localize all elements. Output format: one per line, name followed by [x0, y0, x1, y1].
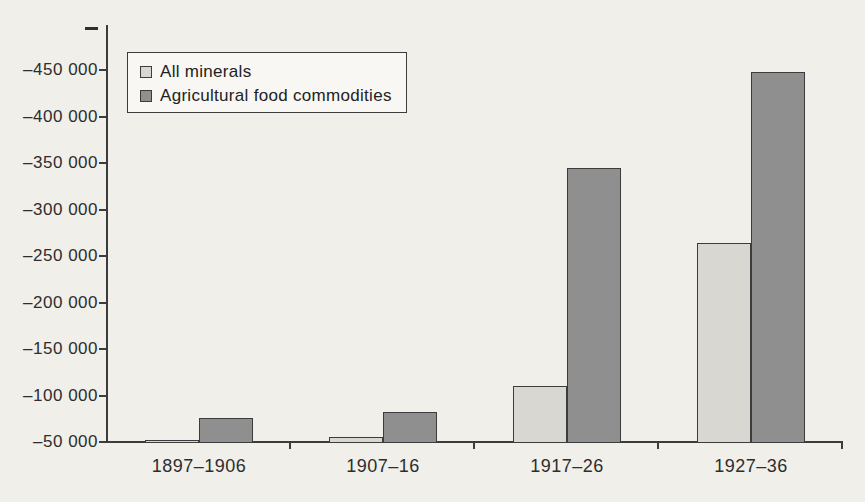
x-tick — [473, 441, 475, 449]
legend-item-agricultural-food-commodities: Agricultural food commodities — [140, 84, 406, 108]
y-tick-label: –150 000 — [4, 338, 98, 360]
y-tick — [99, 302, 107, 304]
y-tick-label: –350 000 — [4, 152, 98, 174]
bar-all-minerals — [697, 243, 751, 442]
y-tick-label: –200 000 — [4, 292, 98, 314]
legend-swatch-agricultural-food-commodities — [140, 90, 152, 102]
bar-agricultural-food-commodities — [383, 412, 437, 442]
legend-swatch-all-minerals — [140, 66, 152, 78]
y-axis-line — [106, 25, 108, 443]
x-category-label: 1927–36 — [681, 454, 821, 478]
y-tick — [99, 69, 107, 71]
legend-label-all-minerals: All minerals — [160, 62, 251, 82]
x-category-label: 1907–16 — [313, 454, 453, 478]
y-tick-label: –50 000 — [4, 431, 98, 453]
bar-all-minerals — [145, 440, 199, 442]
y-tick — [99, 348, 107, 350]
x-tick — [289, 441, 291, 449]
y-tick-label: –300 000 — [4, 199, 98, 221]
legend-item-all-minerals: All minerals — [140, 60, 406, 84]
x-tick — [841, 441, 843, 449]
bar-all-minerals — [513, 386, 567, 442]
legend-label-agricultural-food-commodities: Agricultural food commodities — [160, 86, 392, 106]
bar-agricultural-food-commodities — [567, 168, 621, 442]
legend: All minerals Agricultural food commoditi… — [127, 52, 407, 113]
y-tick-label: –450 000 — [4, 59, 98, 81]
y-axis-top-partial-label — [85, 27, 98, 30]
y-tick-label: –100 000 — [4, 385, 98, 407]
x-tick — [657, 441, 659, 449]
bar-all-minerals — [329, 437, 383, 442]
y-tick — [99, 209, 107, 211]
x-category-label: 1917–26 — [497, 454, 637, 478]
bar-agricultural-food-commodities — [199, 418, 253, 442]
y-tick — [99, 255, 107, 257]
bar-agricultural-food-commodities — [751, 72, 805, 442]
y-tick — [99, 116, 107, 118]
y-tick — [99, 441, 107, 443]
bar-chart-figure: –450 000–400 000–350 000–300 000–250 000… — [0, 0, 865, 502]
x-category-label: 1897–1906 — [129, 454, 269, 478]
y-tick-label: –400 000 — [4, 106, 98, 128]
y-tick — [99, 395, 107, 397]
y-tick — [99, 162, 107, 164]
y-tick-label: –250 000 — [4, 245, 98, 267]
